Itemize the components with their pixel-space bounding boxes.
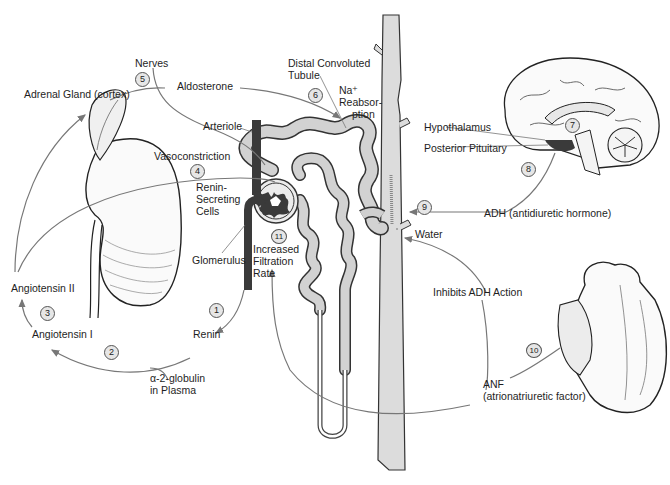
label-gfr-3: Rate [253, 267, 275, 279]
label-na-reabsorption-2: ption [352, 108, 375, 120]
label-adh: ADH (antidiuretic hormone) [484, 207, 611, 219]
label-posterior-pituitary: Posterior Pituitary [424, 142, 507, 154]
label-distal-tubule-1: Distal Convoluted [288, 57, 370, 69]
label-aldosterone: Aldosterone [177, 80, 233, 92]
step-marker-4: 4 [190, 164, 205, 179]
label-water: Water [415, 228, 443, 240]
label-gfr-1: Increased [253, 243, 299, 255]
label-hypothalamus: Hypothalamus [424, 121, 491, 133]
label-renin-cells-3: Cells [196, 205, 219, 217]
step-marker-1: 1 [209, 303, 224, 318]
label-inhibits-adh: Inhibits ADH Action [433, 286, 522, 298]
label-gfr-2: Filtration [253, 255, 293, 267]
label-arteriole: Arteriole [203, 120, 242, 132]
step-marker-8: 8 [521, 162, 536, 177]
step-marker-6: 6 [308, 88, 323, 103]
label-globulin-1: α-2-globulin [150, 372, 205, 384]
step-marker-7: 7 [565, 118, 580, 133]
diagram-artwork [0, 0, 670, 485]
kidney-illustration [86, 90, 181, 318]
label-vasoconstriction: Vasoconstriction [154, 150, 230, 162]
step-marker-11: 11 [271, 229, 287, 244]
label-na: Na⁺ [339, 84, 358, 96]
label-adrenal-gland: Adrenal Gland (cortex) [24, 88, 130, 100]
label-angiotensin-1: Angiotensin I [32, 328, 93, 340]
label-renin-cells-1: Renin- [196, 181, 227, 193]
step-marker-3: 3 [40, 306, 55, 321]
step-marker-5: 5 [135, 72, 150, 87]
step-marker-10: 10 [526, 343, 542, 358]
label-glomerulus: Glomerulus [192, 254, 246, 266]
label-nerves: Nerves [135, 57, 168, 69]
label-globulin-2: in Plasma [150, 384, 196, 396]
label-renin: Renin [193, 328, 220, 340]
label-na-reabsorption-1: Reabsor- [339, 96, 382, 108]
label-angiotensin-2: Angiotensin II [11, 282, 75, 294]
step-marker-2: 2 [104, 345, 119, 360]
collecting-duct [374, 15, 411, 470]
label-distal-tubule-2: Tubule [288, 69, 320, 81]
label-anf: ANF [483, 378, 504, 390]
label-renin-cells-2: Secreting [196, 193, 240, 205]
brain-illustration [504, 58, 659, 175]
step-marker-9: 9 [417, 200, 432, 215]
label-anf-full: (atrionatriuretic factor) [483, 390, 586, 402]
